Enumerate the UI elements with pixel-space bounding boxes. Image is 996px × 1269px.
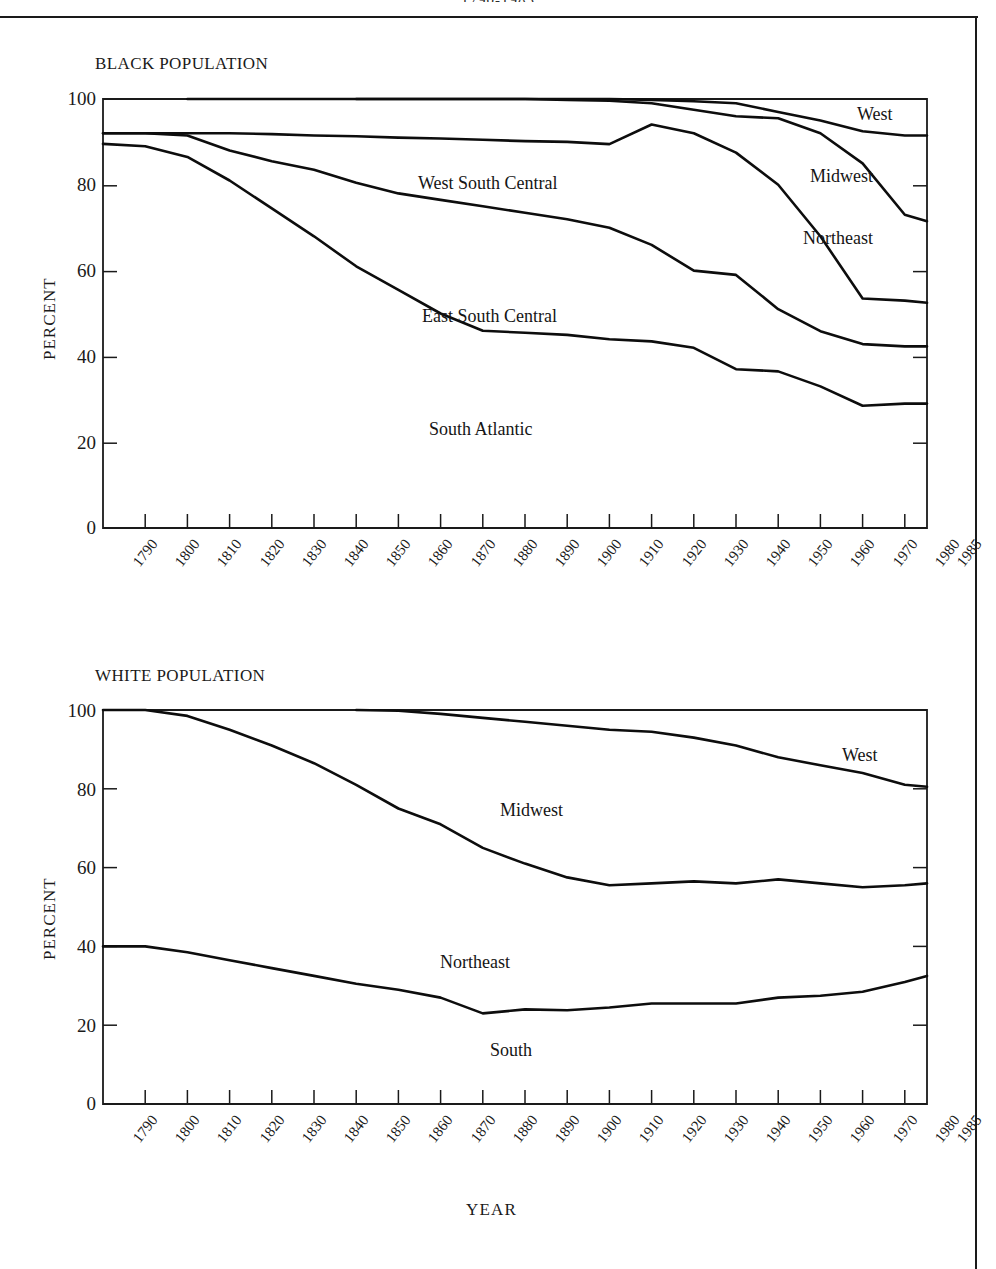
x-axis-label: YEAR <box>466 1200 517 1220</box>
figure-page: 1790-1985 BLACK POPULATION PERCENT 100 8… <box>0 0 996 1269</box>
plot-area-white <box>0 0 996 1269</box>
series-line-northeast-bottom <box>103 946 927 1013</box>
x-ticks-bottom <box>145 1090 905 1104</box>
series-label-south-bottom: South <box>490 1040 532 1061</box>
y-ticks-bottom <box>103 789 927 1025</box>
panel-white-population: WHITE POPULATION PERCENT 100 80 60 40 20… <box>0 0 996 1269</box>
series-label-northeast-bottom: Northeast <box>440 952 510 973</box>
series-label-west-bottom: West <box>842 745 878 766</box>
series-label-midwest-bottom: Midwest <box>500 800 563 821</box>
series-line-midwest-bottom <box>103 710 927 887</box>
